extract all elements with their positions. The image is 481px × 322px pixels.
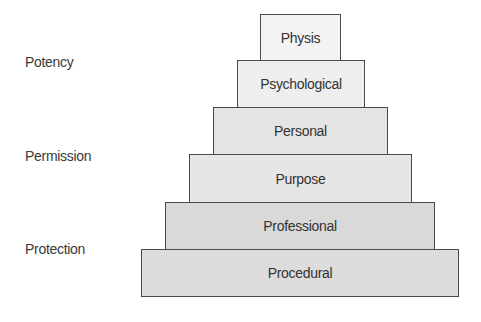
tier-professional: Professional — [165, 202, 435, 250]
label-potency: Potency — [25, 54, 74, 70]
tier-personal: Personal — [213, 107, 388, 155]
tier-purpose: Purpose — [189, 154, 412, 203]
label-protection: Protection — [25, 241, 85, 257]
label-permission: Permission — [25, 148, 91, 164]
tier-psychological: Psychological — [237, 60, 365, 108]
tier-physis: Physis — [260, 14, 341, 61]
tier-procedural: Procedural — [141, 249, 459, 297]
